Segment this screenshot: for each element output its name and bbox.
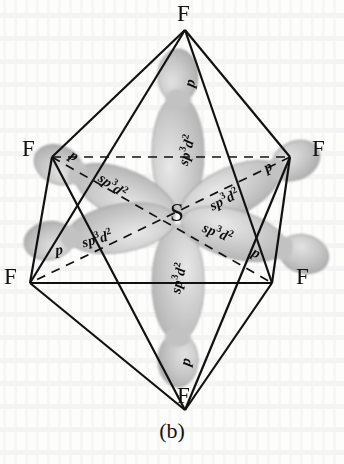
orbital-label-lower-left-p: p xyxy=(54,241,64,259)
octahedron-and-orbitals xyxy=(0,0,344,464)
figure-caption: (b) xyxy=(0,418,344,444)
central-atom-label-s: S xyxy=(170,200,184,225)
vertex-label-f-lower-left: F xyxy=(4,265,17,288)
vertex-label-f-bottom: F xyxy=(177,384,190,407)
vertex-label-f-top: F xyxy=(177,2,190,25)
sf6-orbital-diagram: F F F F F F S sp3d2 sp3d2 sp3d2 sp3d2 sp… xyxy=(0,0,344,464)
vertex-label-f-lower-right: F xyxy=(296,265,309,288)
vertex-label-f-upper-right: F xyxy=(312,137,325,160)
vertex-label-f-upper-left: F xyxy=(22,137,35,160)
